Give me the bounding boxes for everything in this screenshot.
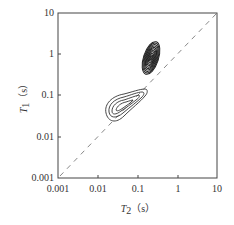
lower-peak-contours <box>106 89 148 121</box>
x-tick-label: 1 <box>176 183 181 194</box>
y-tick-label: 10 <box>44 7 54 18</box>
x-tick-label: 0.1 <box>132 183 145 194</box>
y-tick-labels: 0.001 0.01 0.1 1 10 <box>32 7 55 183</box>
x-tick-label: 10 <box>212 183 222 194</box>
upper-peak-contours <box>139 40 164 77</box>
y-axis-label: T1（s） <box>18 79 31 113</box>
y-tick-label: 1 <box>49 48 54 59</box>
x-axis-label: T2（s） <box>121 203 155 216</box>
t1-t2-contour-chart: 0.001 0.01 0.1 1 10 0.001 0.01 0.1 1 10 … <box>0 0 234 225</box>
diagonal-reference-line <box>60 13 217 176</box>
x-tick-label: 0.001 <box>47 183 70 194</box>
y-tick-label: 0.1 <box>42 89 55 100</box>
x-tick-labels: 0.001 0.01 0.1 1 10 <box>47 183 222 194</box>
y-tick-label: 0.001 <box>32 172 55 183</box>
x-tick-label: 0.01 <box>89 183 107 194</box>
y-tick-label: 0.01 <box>37 131 55 142</box>
